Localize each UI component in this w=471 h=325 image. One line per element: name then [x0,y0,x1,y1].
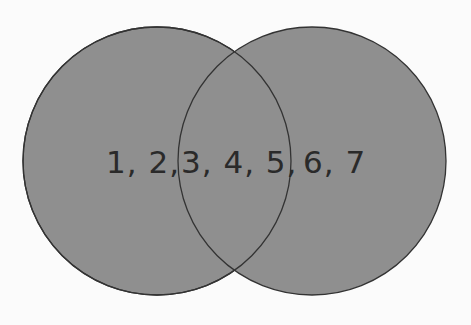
right-only-label: 6, 7 [303,142,366,182]
left-only-label: 1, 2, [106,142,180,182]
venn-diagram: 1, 2, 3, 4, 5, 6, 7 [0,0,471,325]
intersection-label: 3, 4, 5, [181,142,297,182]
element-labels: 1, 2, 3, 4, 5, 6, 7 [0,142,471,182]
